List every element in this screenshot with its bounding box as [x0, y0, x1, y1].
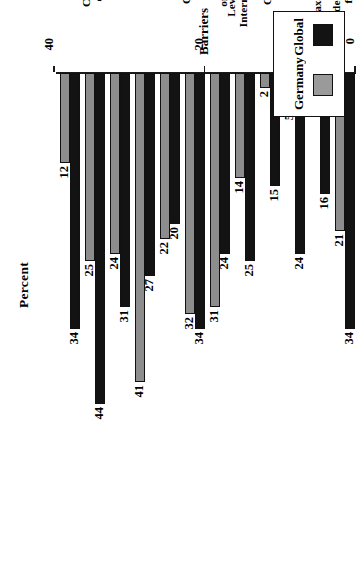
bar-value-label: 32 [183, 317, 196, 330]
bar-value-label: 25 [83, 264, 96, 277]
bar-value-label: 24 [218, 257, 231, 270]
bar-value-label: 15 [268, 189, 281, 202]
bar-global [95, 73, 105, 404]
bar-germany [85, 73, 95, 261]
legend-swatch [313, 24, 333, 46]
rotated-figure-wrapper: 02040603421Inadequate legal protection f… [0, 0, 362, 575]
bar-value-label: 22 [158, 242, 171, 255]
bar-global [345, 73, 355, 329]
y-axis-title: Barriers [196, 8, 212, 55]
legend-item-global: Global [274, 12, 344, 62]
bar-chart-figure: 02040603421Inadequate legal protection f… [0, 0, 362, 575]
bar-germany [210, 73, 220, 307]
x-axis-tick-label: 40 [42, 38, 55, 64]
bar-value-label: 34 [193, 332, 206, 345]
bar-germany [135, 73, 145, 382]
category-label: Customers do not use the technology [107, 0, 130, 66]
bar-global [170, 73, 180, 224]
bar-value-label: 34 [343, 332, 356, 345]
bar-global [145, 73, 155, 276]
x-axis-title: Percent [16, 262, 32, 308]
bar-global [195, 73, 205, 329]
bar-germany [110, 73, 120, 254]
bar-value-label: 24 [293, 257, 306, 270]
bar-value-label: 27 [143, 279, 156, 292]
bar-value-label: 2 [258, 91, 271, 97]
bar-value-label: 34 [68, 332, 81, 345]
bar-value-label: 20 [168, 227, 181, 240]
legend-swatch [313, 74, 333, 96]
bar-global [245, 73, 255, 261]
legend-label: Germany [291, 64, 307, 110]
bar-global [70, 73, 80, 329]
x-axis-tick [53, 66, 55, 72]
bar-value-label: 24 [108, 257, 121, 270]
bar-value-label: 41 [133, 385, 146, 398]
bar-value-label: 14 [233, 181, 246, 194]
bar-germany [160, 73, 170, 239]
category-label: Concern about privacy of data/security i… [82, 0, 105, 66]
bar-value-label: 31 [208, 310, 221, 323]
category-label: Prevalence of credit card use [157, 0, 180, 66]
bar-value-label: 31 [118, 310, 131, 323]
legend: GlobalGermany [273, 11, 345, 117]
bar-germany [185, 73, 195, 314]
bar-germany [60, 73, 70, 163]
bar-global [220, 73, 230, 254]
bar-value-label: 25 [243, 264, 256, 277]
bar-value-label: 44 [93, 407, 106, 420]
bar-germany [235, 73, 245, 178]
bar-global [120, 73, 130, 307]
category-label: Finding staff with e-commerce expertise [132, 0, 155, 66]
legend-item-germany: Germany [274, 62, 344, 112]
bar-value-label: 21 [333, 234, 346, 247]
category-label: Need for face-to-face customer interacti… [57, 0, 80, 66]
plot-area: 02040603421Inadequate legal protection f… [56, 72, 356, 524]
category-label: Level of ability to use the Internet as … [226, 0, 261, 66]
legend-label: Global [291, 14, 307, 60]
bar-value-label: 12 [58, 166, 71, 179]
bar-value-label: 16 [318, 197, 331, 210]
bar-germany [260, 73, 270, 88]
